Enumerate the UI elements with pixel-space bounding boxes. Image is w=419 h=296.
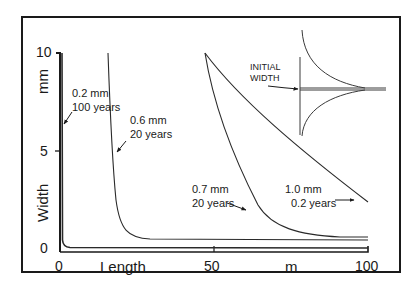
annotation-0.6mm-width: 0.6 mm xyxy=(130,113,172,127)
figure-frame xyxy=(22,17,400,272)
inset-label: INITIAL WIDTH xyxy=(250,62,281,84)
annotation-0.6mm: 0.6 mm 20 years xyxy=(130,113,172,141)
inset-diagram xyxy=(268,30,386,136)
y-tick-label-0: 0 xyxy=(40,241,48,255)
x-axis-title: Length xyxy=(100,259,146,274)
y-axis-title: Width xyxy=(35,172,50,222)
inset-upper-curve xyxy=(302,30,365,88)
y-axis-unit: mm xyxy=(35,64,50,94)
arrow-0.6mm xyxy=(117,141,126,152)
x-axis-unit: m xyxy=(285,259,298,274)
annotation-0.7mm: 0.7 mm 20 years xyxy=(192,182,234,210)
inset-label-line1: INITIAL xyxy=(250,62,281,73)
y-axis-line xyxy=(56,53,60,252)
annotation-0.7mm-width: 0.7 mm xyxy=(192,182,234,196)
annotation-1.0mm-years: 0.2 years xyxy=(285,196,336,210)
y-tick-label-10: 10 xyxy=(36,45,52,59)
annotation-1.0mm-width: 1.0 mm xyxy=(285,182,336,196)
y-tick-label-5: 5 xyxy=(40,144,48,158)
inset-label-line2: WIDTH xyxy=(250,73,281,84)
inset-lower-curve xyxy=(302,90,365,136)
annotation-1.0mm: 1.0 mm 0.2 years xyxy=(285,182,336,210)
annotation-0.7mm-years: 20 years xyxy=(192,196,234,210)
chart-canvas xyxy=(0,0,419,296)
chart-figure: 10 5 0 mm Width 0 50 100 Length m 0.2 mm… xyxy=(0,0,419,296)
series-lines xyxy=(62,53,368,248)
series-line-1.0mm-0.2y xyxy=(205,53,368,202)
annotation-0.2mm-years: 100 years xyxy=(72,100,120,114)
series-line-0.2mm-100y xyxy=(62,53,368,248)
x-tick-label-100: 100 xyxy=(355,259,378,273)
annotation-0.2mm-width: 0.2 mm xyxy=(72,86,120,100)
annotation-0.2mm: 0.2 mm 100 years xyxy=(72,86,120,114)
x-tick-label-50: 50 xyxy=(204,259,220,273)
series-line-0.6mm-20y xyxy=(108,53,368,240)
annotation-0.6mm-years: 20 years xyxy=(130,127,172,141)
inset-arrow xyxy=(268,86,298,89)
arrow-0.2mm xyxy=(64,112,72,124)
x-tick-label-0: 0 xyxy=(55,259,63,273)
